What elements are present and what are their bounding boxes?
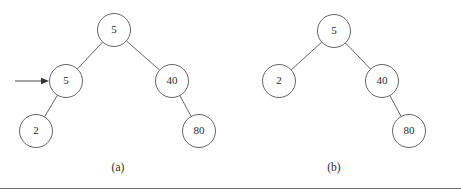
tree-node: 2: [20, 115, 53, 148]
tree-node: 40: [156, 65, 189, 98]
figure-container: 5540280524080 (a)(b): [0, 0, 461, 196]
tree-edge: [44, 95, 57, 117]
tree-node: 80: [393, 115, 426, 148]
tree-node: 2: [263, 65, 296, 98]
tree-node: 5: [318, 15, 351, 48]
tree-edge: [180, 96, 191, 117]
node-value-label: 40: [167, 74, 179, 86]
panel-caption: (a): [112, 161, 125, 174]
binary-tree-figure: 5540280524080 (a)(b): [0, 0, 461, 196]
node-value-label: 2: [33, 124, 39, 136]
tree-node: 80: [183, 115, 216, 148]
tree-edges-layer: [44, 41, 401, 117]
tree-edge: [126, 41, 159, 70]
panel-captions-layer: (a)(b): [112, 161, 341, 174]
node-value-label: 5: [111, 23, 117, 35]
tree-nodes-layer: 5540280524080: [20, 14, 426, 148]
node-value-label: 5: [63, 74, 69, 86]
node-value-label: 5: [331, 24, 337, 36]
pointer-arrow-head: [41, 78, 49, 84]
node-value-label: 2: [276, 74, 282, 86]
tree-node: 5: [98, 14, 131, 47]
pointer-arrows-layer: [15, 78, 49, 84]
tree-edge: [291, 42, 322, 70]
tree-node: 40: [366, 65, 399, 98]
tree-edge: [77, 42, 102, 69]
node-value-label: 80: [194, 124, 206, 136]
panel-caption: (b): [327, 161, 341, 174]
tree-node: 5: [50, 65, 83, 98]
node-value-label: 80: [404, 124, 416, 136]
tree-edge: [345, 43, 370, 69]
tree-edge: [390, 96, 401, 117]
node-value-label: 40: [377, 74, 389, 86]
